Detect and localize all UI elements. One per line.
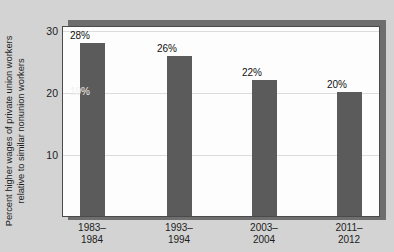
- data-label-2003-2004: 22%: [232, 67, 272, 78]
- bar-1993-1994[interactable]: [167, 56, 192, 216]
- x-axis-label-1993-1994-line-2: 1994: [149, 234, 209, 246]
- data-label-2011-2012: 20%: [317, 79, 357, 90]
- x-axis-label-2003-2004-line-1: 2003–: [234, 222, 294, 234]
- x-axis-label-2003-2004: 2003– 2004: [234, 222, 294, 246]
- data-label-1983-1984: 28%: [60, 30, 100, 41]
- y-axis-title: Percent higher wages of private union wo…: [3, 25, 33, 237]
- x-axis-label-2011-2012-line-2: 2012: [319, 234, 379, 246]
- y-axis-title-line-2: relative to similar nonunion workers: [15, 25, 27, 237]
- gridline-30: [63, 31, 379, 32]
- bar-1983-1984[interactable]: [80, 43, 105, 216]
- y-tick-label-30: 30: [32, 25, 58, 37]
- x-axis-label-2003-2004-line-2: 2004: [234, 234, 294, 246]
- x-axis-label-1983-1984: 1983– 1984: [62, 222, 122, 246]
- y-axis-title-line-1: Percent higher wages of private union wo…: [3, 25, 15, 237]
- y-tick-label-10: 10: [32, 149, 58, 161]
- gridline-20: [63, 93, 379, 94]
- plot-area: [62, 26, 380, 217]
- x-axis-label-1983-1984-line-2: 1984: [62, 234, 122, 246]
- gridline-10: [63, 155, 379, 156]
- x-axis-label-1983-1984-line-1: 1983–: [62, 222, 122, 234]
- x-axis-label-2011-2012: 2011– 2012: [319, 222, 379, 246]
- x-axis-label-2011-2012-line-1: 2011–: [319, 222, 379, 234]
- bar-2011-2012[interactable]: [337, 92, 362, 216]
- data-label-1993-1994: 26%: [147, 43, 187, 54]
- bar-chart-figure: Percent higher wages of private union wo…: [0, 0, 394, 252]
- x-axis-label-1993-1994-line-1: 1993–: [149, 222, 209, 234]
- x-axis-label-1993-1994: 1993– 1994: [149, 222, 209, 246]
- annotation-label-19-percent: 19%: [60, 86, 100, 97]
- bar-2003-2004[interactable]: [252, 80, 277, 216]
- y-tick-label-20: 20: [32, 87, 58, 99]
